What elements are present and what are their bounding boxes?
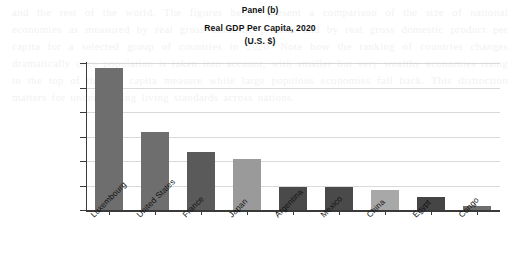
chart-units-label: (U.S. $)	[0, 35, 520, 49]
panel-label: Panel (b)	[0, 4, 520, 18]
gdp-per-capita-bar-chart: Panel (b) Real GDP Per Capita, 2020 (U.S…	[0, 0, 520, 280]
x-tick-mark	[339, 211, 340, 215]
bar-series	[86, 63, 500, 210]
chart-title: Real GDP Per Capita, 2020	[0, 22, 520, 36]
x-tick-mark	[431, 211, 432, 215]
x-tick-mark	[247, 211, 248, 215]
x-tick-mark	[385, 211, 386, 215]
x-tick-mark	[109, 211, 110, 215]
x-tick-mark	[293, 211, 294, 215]
x-tick-mark	[155, 211, 156, 215]
x-tick-mark	[477, 211, 478, 215]
chart-title-block: Panel (b) Real GDP Per Capita, 2020 (U.S…	[0, 4, 520, 49]
x-tick-mark	[201, 211, 202, 215]
